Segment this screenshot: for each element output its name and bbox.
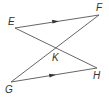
label-h: H	[93, 70, 101, 81]
parallel-arrow-icon-ef	[52, 20, 59, 24]
label-f: F	[96, 2, 103, 13]
segment-gf	[11, 15, 99, 82]
geometry-diagram: E F K G H	[0, 0, 109, 97]
label-e: E	[8, 16, 15, 27]
diagram-canvas: E F K G H	[0, 0, 109, 97]
parallel-arrow-icon-gh	[49, 74, 56, 78]
label-k: K	[52, 52, 60, 63]
label-g: G	[5, 84, 13, 95]
